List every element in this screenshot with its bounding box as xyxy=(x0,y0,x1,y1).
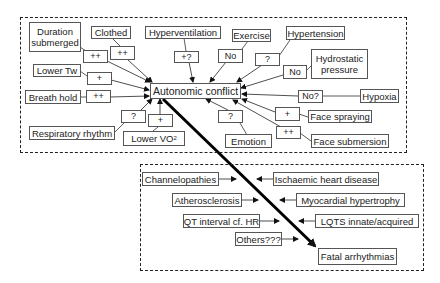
effect-face-submersion: ++ xyxy=(276,126,301,139)
factor-breath-hold: Breath hold xyxy=(25,90,81,104)
factor-exercise: Exercise xyxy=(232,29,271,42)
effect-emotion: ? xyxy=(218,110,243,123)
factor-clothed: Clothed xyxy=(91,26,131,39)
central-node-autonomic-conflict: Autonomic conflict xyxy=(150,83,241,99)
factor-face-spraying: Face spraying xyxy=(308,110,372,123)
effect-hydrostatic: No xyxy=(283,65,307,79)
contributor-qt-interval: QT interval cf. HR xyxy=(183,214,260,228)
factor-lower-vo2: Lower VO2 xyxy=(123,131,185,146)
contributor-myocardial-hypertrophy: Myocardial hypertrophy xyxy=(296,193,405,207)
factor-lower-tw: Lower Tw xyxy=(33,64,81,77)
factor-hypoxia: Hypoxia xyxy=(360,89,399,103)
effect-respiratory-rhythm: ? xyxy=(121,110,146,123)
effect-lower-tw: + xyxy=(87,72,112,85)
factor-respiratory-rhythm: Respiratory rhythm xyxy=(29,126,115,140)
contributor-ischaemic-heart-disease: Ischaemic heart disease xyxy=(273,172,379,186)
effect-hypertension: ? xyxy=(255,53,280,66)
effect-exercise: No xyxy=(218,49,243,63)
factor-emotion: Emotion xyxy=(225,134,272,148)
contributor-others: Others??? xyxy=(235,232,282,246)
effect-hypoxia: No? xyxy=(298,90,323,103)
effect-face-spraying: + xyxy=(275,107,300,121)
lower-vo2-label: Lower VO xyxy=(131,133,173,144)
factor-face-submersion: Face submersion xyxy=(311,134,389,148)
factor-hydrostatic-pressure: Hydrostatic pressure xyxy=(311,49,368,79)
effect-breath-hold: ++ xyxy=(86,90,111,103)
effect-clothed: ++ xyxy=(110,46,135,60)
effect-hyperventilation: +? xyxy=(174,51,199,63)
lower-vo2-subscript: 2 xyxy=(173,133,176,144)
factor-hyperventilation: Hyperventilation xyxy=(145,26,221,39)
effect-duration: ++ xyxy=(83,50,108,63)
effect-lower-vo2: + xyxy=(148,114,173,127)
contributor-lqts: LQTS innate/acquired xyxy=(315,214,419,228)
factor-duration-submerged: Duration submerged xyxy=(29,22,81,52)
contributor-channelopathies: Channelopathies xyxy=(142,172,219,186)
factor-hypertension: Hypertension xyxy=(286,26,345,40)
outcome-fatal-arrhythmias: Fatal arrhythmias xyxy=(318,248,397,265)
contributor-atherosclerosis: Atherosclerosis xyxy=(172,193,242,207)
